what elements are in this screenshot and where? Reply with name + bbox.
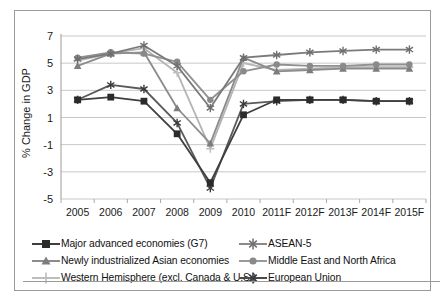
legend-item: Western Hemisphere (excl. Canada & U.S.) — [31, 269, 245, 286]
line-chart-svg: 7531-1-3-52005200620072008200920102011F2… — [15, 11, 432, 233]
legend-divider — [23, 281, 440, 282]
x-axis-tick: 2011F — [262, 206, 291, 218]
x-axis-tick: 2006 — [99, 206, 123, 218]
y-axis-tick: -3 — [43, 166, 53, 178]
legend-item: ASEAN-5 — [238, 235, 428, 252]
plot-area: % Change in GDP 7531-1-3-520052006200720… — [15, 11, 432, 233]
x-axis-tick: 2015F — [395, 206, 425, 218]
legend-item: Major advanced economies (G7) — [31, 235, 245, 252]
legend-symbol-major-advanced-economies-g7 — [31, 237, 61, 251]
y-axis-tick: 7 — [47, 30, 53, 42]
series-european-union — [74, 81, 413, 193]
x-axis-tick: 2010 — [232, 206, 256, 218]
y-axis-tick: 5 — [47, 57, 53, 69]
x-axis-tick: 2005 — [66, 206, 90, 218]
y-axis-tick: -1 — [43, 139, 53, 151]
y-axis-tick: 1 — [47, 112, 53, 124]
y-axis-tick: 3 — [47, 84, 53, 96]
chart-frame: % Change in GDP 7531-1-3-520052006200720… — [14, 10, 431, 291]
x-axis-tick: 2013F — [328, 206, 358, 218]
legend-label: Newly industrialized Asian economies — [61, 255, 229, 266]
legend-item: European Union — [238, 269, 428, 286]
legend-symbol-european-union — [238, 271, 268, 285]
legend-label: ASEAN-5 — [268, 238, 311, 249]
legend-column-right: ASEAN-5 Middle East and North Africa Eur… — [238, 235, 428, 286]
chart-legend: Major advanced economies (G7) Newly indu… — [23, 235, 423, 289]
x-axis-tick: 2009 — [199, 206, 223, 218]
legend-symbol-western-hemisphere — [31, 271, 61, 285]
x-axis-tick: 2014F — [361, 206, 391, 218]
legend-label: Major advanced economies (G7) — [61, 238, 207, 249]
legend-symbol-asean-5 — [238, 237, 268, 251]
legend-item: Middle East and North Africa — [238, 252, 428, 269]
legend-symbol-newly-industrialized-asian-economies — [31, 254, 61, 268]
y-axis-tick: -5 — [43, 193, 53, 205]
legend-item: Newly industrialized Asian economies — [31, 252, 245, 269]
x-axis-tick: 2012F — [295, 206, 325, 218]
x-axis-tick: 2008 — [165, 206, 189, 218]
legend-symbol-middle-east-and-north-africa — [238, 254, 268, 268]
x-axis-tick: 2007 — [132, 206, 156, 218]
legend-label: Middle East and North Africa — [268, 255, 396, 266]
legend-column-left: Major advanced economies (G7) Newly indu… — [31, 235, 245, 286]
